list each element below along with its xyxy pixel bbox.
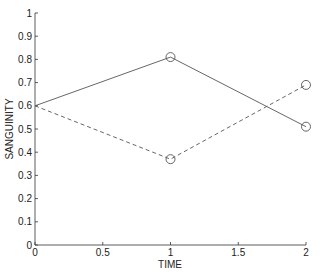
- x-tick-label: 1: [168, 247, 174, 258]
- x-tick-label: 1.5: [231, 247, 245, 258]
- y-tick-label: 0.1: [18, 216, 32, 227]
- series-line-solid: [35, 57, 306, 127]
- y-tick-label: 0.2: [18, 193, 32, 204]
- axes: 00.10.20.30.40.50.60.70.80.9100.511.52: [18, 8, 309, 259]
- x-tick-label: 0: [32, 247, 38, 258]
- x-tick-label: 0.5: [96, 247, 110, 258]
- y-axis-label: SANGUINITY: [4, 98, 15, 159]
- y-tick-label: 0.9: [18, 31, 32, 42]
- y-tick-label: 0.8: [18, 54, 32, 65]
- y-tick-label: 0.5: [18, 124, 32, 135]
- y-tick-label: 0.6: [18, 100, 32, 111]
- y-tick-label: 1: [26, 8, 32, 19]
- chart: 00.10.20.30.40.50.60.70.80.9100.511.52 T…: [0, 0, 322, 277]
- y-tick-label: 0.3: [18, 170, 32, 181]
- data-point-marker: [302, 80, 311, 89]
- series-line-dashed: [35, 85, 306, 159]
- data-point-marker: [166, 155, 175, 164]
- series-layer: [35, 53, 311, 164]
- x-axis-label: TIME: [158, 259, 182, 270]
- x-tick-label: 2: [303, 247, 309, 258]
- y-tick-label: 0.7: [18, 77, 32, 88]
- y-tick-label: 0.4: [18, 147, 32, 158]
